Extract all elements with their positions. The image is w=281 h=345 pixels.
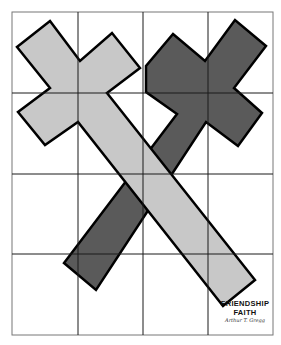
- signature: Arthur T. Gregg: [214, 317, 276, 324]
- quilt-block-artwork: [0, 0, 281, 345]
- title-line-1: FRIENDSHIP: [214, 299, 276, 308]
- title-line-2: FAITH: [214, 308, 276, 317]
- artwork-caption: FRIENDSHIP FAITH Arthur T. Gregg: [214, 299, 276, 324]
